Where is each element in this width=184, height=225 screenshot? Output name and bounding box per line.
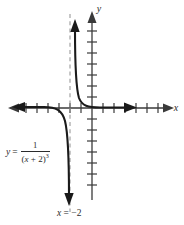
equation-label: y = 1 (x + 2)3 xyxy=(6,141,50,164)
equation-equals-sign: = xyxy=(12,148,17,158)
denominator-variable: x xyxy=(25,154,29,164)
function-graph-figure: x y xyxy=(0,0,184,225)
y-axis-group: y xyxy=(87,3,102,200)
asymptote-caption: x = −2 xyxy=(57,208,81,218)
equation-fraction: 1 (x + 2)3 xyxy=(21,141,50,164)
denominator-exponent: 3 xyxy=(46,153,49,159)
asymptote-caption-variable: x xyxy=(57,208,61,218)
graph-canvas: x y xyxy=(0,0,184,225)
denominator-plus-term: + 2 xyxy=(31,154,43,164)
equation-denominator: (x + 2)3 xyxy=(21,152,50,164)
equation-numerator: 1 xyxy=(29,141,41,151)
left-branch-down-arrow-icon xyxy=(64,193,73,206)
right-branch-path xyxy=(75,30,126,108)
asymptote-caption-value: = −2 xyxy=(64,208,82,218)
x-axis-right-arrow-icon xyxy=(163,104,174,113)
y-axis-up-arrow-icon xyxy=(88,11,97,23)
right-branch-up-arrow-icon xyxy=(70,19,79,32)
curve-right-branch xyxy=(70,19,137,113)
y-axis-label: y xyxy=(96,3,102,14)
equation-lhs: y xyxy=(6,148,10,158)
right-branch-right-arrow-icon xyxy=(124,103,137,113)
x-axis-label: x xyxy=(173,102,179,113)
